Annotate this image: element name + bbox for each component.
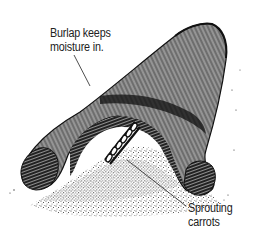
burlap-leader-line	[74, 55, 90, 86]
burlap-callout-label: Burlap keeps moisture in.	[50, 26, 111, 54]
burlap-callout-line1: Burlap keeps	[50, 26, 111, 40]
carrots-callout-line2: carrots	[188, 215, 232, 229]
illustration-canvas: Burlap keeps moisture in. Sprouting carr…	[0, 0, 258, 236]
carrots-callout-line1: Sprouting	[188, 201, 232, 215]
burlap-callout-line2: moisture in.	[50, 40, 111, 54]
carrots-callout-label: Sprouting carrots	[188, 201, 232, 229]
